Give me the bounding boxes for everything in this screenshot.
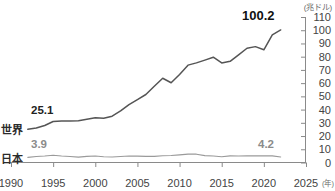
x-tick-label: 2010 <box>160 177 200 189</box>
series-line-japan <box>28 154 281 157</box>
y-tick-label: 50 <box>309 90 331 102</box>
x-tick-label: 1990 <box>0 177 31 189</box>
chart-container: (兆ドル) 1101009080706050403020100 19901995… <box>0 0 335 191</box>
legend-label-world: 世界 <box>1 121 22 137</box>
y-tick-label: 70 <box>309 64 331 76</box>
y-tick-label: 30 <box>309 117 331 129</box>
series-line-world <box>28 30 281 129</box>
chart-plot-area <box>0 0 335 191</box>
x-tick-label: 2005 <box>117 177 157 189</box>
x-axis-ticks <box>12 163 307 168</box>
legend-label-japan: 日本 <box>1 150 22 166</box>
y-tick-label: 10 <box>309 143 331 155</box>
y-tick-label: 80 <box>309 51 331 63</box>
x-tick-label: 2015 <box>202 177 242 189</box>
data-label-japan-end: 4.2 <box>258 138 274 150</box>
data-label-japan-start: 3.9 <box>31 138 47 150</box>
y-tick-label: 60 <box>309 77 331 89</box>
y-tick-label: 90 <box>309 37 331 49</box>
x-axis-unit-label: (年) <box>322 177 334 188</box>
x-tick-label: 1995 <box>33 177 73 189</box>
y-tick-label: 40 <box>309 104 331 116</box>
y-tick-label: 110 <box>309 11 331 23</box>
y-tick-label: 0 <box>309 157 331 169</box>
x-tick-label: 2025 <box>286 177 326 189</box>
y-tick-label: 100 <box>309 24 331 36</box>
data-label-world-end: 100.2 <box>242 8 275 23</box>
y-tick-label: 20 <box>309 130 331 142</box>
x-tick-label: 2020 <box>244 177 284 189</box>
x-tick-label: 2000 <box>75 177 115 189</box>
data-label-world-start: 25.1 <box>31 104 53 116</box>
